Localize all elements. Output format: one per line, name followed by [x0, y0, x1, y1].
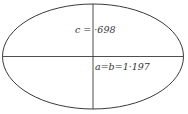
minor-axis-label: c = ·698 [75, 24, 115, 35]
ellipse-diagram: c = ·698 a=b=1·197 [0, 0, 188, 114]
major-axis-label: a=b=1·197 [95, 61, 151, 72]
